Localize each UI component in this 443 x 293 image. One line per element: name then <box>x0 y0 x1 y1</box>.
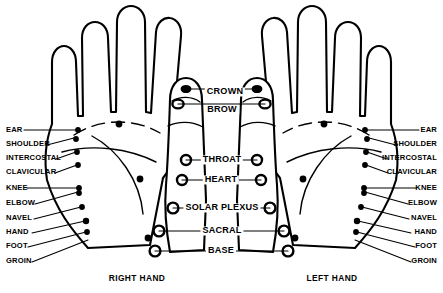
label-right-ear: EAR <box>0 126 437 134</box>
label-center-solar-plexus: SOLAR PLEXUS <box>183 203 260 212</box>
label-right-navel: NAVEL <box>0 214 437 222</box>
caption-left-hand: LEFT HAND <box>306 274 357 282</box>
label-center-heart: HEART <box>203 175 239 184</box>
label-center-throat: THROAT <box>201 155 243 164</box>
left-palm-point-mid <box>300 176 307 183</box>
label-right-shoulder: SHOULDER <box>0 140 437 148</box>
label-right-groin: GROIN <box>0 257 437 265</box>
label-center-sacral: SACRAL <box>200 226 243 235</box>
label-right-knee: KNEE <box>0 184 437 192</box>
label-center-base: BASE <box>206 246 236 255</box>
label-center-crown: CROWN <box>205 87 245 96</box>
left-palm-point-lower <box>292 235 299 242</box>
right-palm-point-mid <box>137 176 144 183</box>
right-palm-point-lower <box>145 235 152 242</box>
caption-right-hand: RIGHT HAND <box>109 274 166 282</box>
hand-reflexology-diagram: EARSHOULDERINTERCOSTALCLAVICULARKNEEELBO… <box>0 0 443 293</box>
label-center-brow: BROW <box>205 105 239 114</box>
